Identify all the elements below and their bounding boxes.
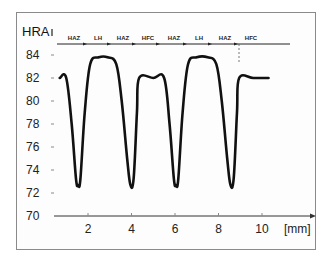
y-tick-label: 72 — [26, 186, 40, 200]
zone-arrow-icon — [83, 43, 87, 46]
zone-label: HFC — [245, 35, 258, 41]
hardness-curve — [60, 56, 269, 187]
zone-label: HAZ — [68, 35, 81, 41]
zone-label: LH — [195, 35, 203, 41]
hardness-chart: HRA HAZLHHAZHFCHAZLHHAZHFC 8482807876747… — [0, 0, 330, 260]
zone-labels: HAZLHHAZHFCHAZLHHAZHFC — [68, 35, 258, 41]
zone-arrow-icon — [183, 43, 187, 46]
x-tick-label: 2 — [85, 222, 92, 236]
y-tick-label: 74 — [26, 163, 40, 177]
y-tick-label: 82 — [26, 71, 40, 85]
x-tick-label: 8 — [215, 222, 222, 236]
x-axis-title: [mm] — [284, 222, 311, 236]
y-tick-label: 78 — [26, 117, 40, 131]
x-tick-label: 6 — [172, 222, 179, 236]
y-tick-label: 84 — [26, 48, 40, 62]
x-tick-label: 4 — [128, 222, 135, 236]
x-axis-arrow-icon — [310, 214, 316, 219]
y-axis-title: HRA — [22, 24, 50, 39]
zone-label: HAZ — [219, 35, 232, 41]
zone-arrow-icon — [107, 43, 111, 46]
zone-arrow-icon — [208, 43, 212, 46]
zone-label: HAZ — [117, 35, 130, 41]
y-tick-label: 80 — [26, 94, 40, 108]
zone-arrow-icon — [132, 43, 136, 46]
zone-arrow-icon — [234, 43, 238, 46]
y-tick-label: 70 — [26, 209, 40, 223]
zone-label: HFC — [142, 35, 155, 41]
zone-arrow-icon — [156, 43, 160, 46]
y-tick-label: 76 — [26, 140, 40, 154]
y-axis: 8482807876747270 — [26, 48, 54, 223]
zone-label: LH — [94, 35, 102, 41]
zone-label: HAZ — [168, 35, 181, 41]
x-tick-label: 10 — [255, 222, 269, 236]
